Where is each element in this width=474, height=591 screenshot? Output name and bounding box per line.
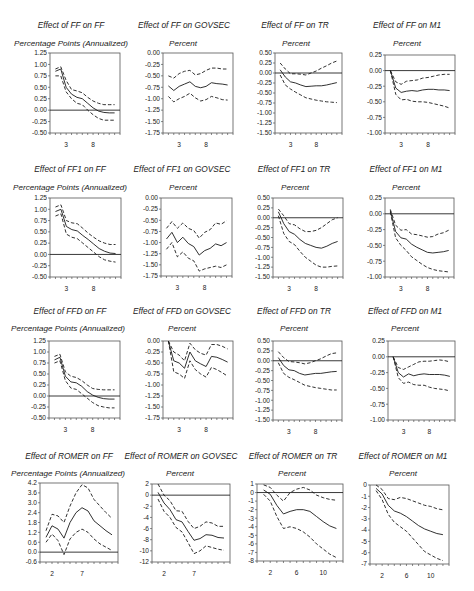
y-tick-label: -1.25 bbox=[145, 106, 160, 113]
x-tick-label: 3 bbox=[402, 428, 406, 435]
y-tick-label: -0.50 bbox=[257, 89, 272, 96]
y-tick-label: -0.50 bbox=[255, 234, 270, 241]
estimate-line bbox=[54, 357, 114, 399]
estimate-line bbox=[46, 508, 112, 538]
y-tick-label: 3.0 bbox=[28, 499, 37, 506]
x-tick-label: 7 bbox=[80, 570, 84, 577]
x-tick-label: 8 bbox=[314, 428, 318, 435]
plot-area: 4.23.63.02.41.81.20.60.0-0.627 bbox=[0, 445, 125, 591]
x-tick-label: 2 bbox=[162, 570, 166, 577]
y-tick-label: -5 bbox=[361, 538, 367, 545]
y-tick-label: -0.25 bbox=[32, 118, 47, 125]
y-tick-label: -4 bbox=[361, 526, 367, 533]
y-tick-label: -1.50 bbox=[255, 416, 270, 423]
y-tick-label: 0.75 bbox=[33, 359, 46, 366]
y-tick-label: -1.50 bbox=[257, 129, 272, 136]
x-tick-label: 8 bbox=[314, 285, 318, 292]
x-tick-label: 3 bbox=[399, 141, 403, 148]
y-tick-label: -0.50 bbox=[367, 98, 382, 105]
y-tick-label: 0.6 bbox=[28, 539, 37, 546]
y-tick-label: 1.25 bbox=[33, 337, 46, 344]
y-tick-label: -5 bbox=[248, 532, 254, 539]
y-tick-label: 1.00 bbox=[34, 61, 47, 68]
y-tick-label: -1.25 bbox=[255, 263, 270, 270]
y-tick-label: 0 bbox=[250, 489, 254, 496]
y-tick-label: -1.25 bbox=[257, 119, 272, 126]
confidence-band-lower-line bbox=[278, 216, 337, 267]
estimate-line bbox=[55, 69, 114, 113]
plot-area: 0.250.00-0.25-0.50-0.75-1.0038 bbox=[350, 158, 474, 298]
y-tick-label: 0.00 bbox=[257, 214, 270, 221]
y-tick-label: -0.50 bbox=[32, 129, 47, 136]
confidence-band-lower-line bbox=[54, 361, 114, 408]
y-tick-label: -7 bbox=[248, 549, 254, 556]
y-tick-label: -7 bbox=[361, 560, 367, 567]
confidence-band-upper-line bbox=[376, 485, 443, 510]
chart-romer-on-m1: Effect of ROMER on M1 Percent 0-1-2-3-4-… bbox=[350, 445, 474, 591]
chart-ff-on-m1: Effect of FF on M1 Percent 0.250.00-0.25… bbox=[350, 15, 474, 155]
y-tick-label: 0.50 bbox=[34, 228, 47, 235]
plot-frame bbox=[152, 484, 230, 562]
x-tick-label: 8 bbox=[204, 141, 208, 148]
y-tick-label: 0.00 bbox=[257, 357, 270, 364]
x-tick-label: 6 bbox=[405, 572, 409, 579]
y-tick-label: -0.75 bbox=[367, 114, 382, 121]
y-tick-label: 0.00 bbox=[259, 69, 272, 76]
confidence-band-upper-line bbox=[390, 71, 449, 85]
y-tick-label: 0.00 bbox=[33, 392, 46, 399]
plot-area: 20-2-4-6-8-10-1227 bbox=[125, 445, 237, 591]
x-tick-label: 6 bbox=[295, 569, 299, 576]
x-tick-label: 10 bbox=[427, 572, 435, 579]
chart-ff1-on-govsec: Effect of FF1 on GOVSEC Percent 0.00-0.2… bbox=[125, 158, 237, 298]
plot-area: 0.500.250.00-0.25-0.50-0.75-1.00-1.25-1.… bbox=[237, 15, 350, 155]
y-tick-label: 0 bbox=[363, 481, 367, 488]
plot-frame bbox=[257, 484, 343, 561]
y-tick-label: -0.50 bbox=[143, 217, 158, 224]
y-tick-label: 0.50 bbox=[257, 194, 270, 201]
y-tick-label: -8 bbox=[143, 536, 149, 543]
y-tick-label: -2 bbox=[361, 504, 367, 511]
y-tick-label: 2 bbox=[145, 480, 149, 487]
estimate-line bbox=[390, 211, 448, 253]
x-tick-label: 8 bbox=[92, 285, 96, 292]
y-tick-label: 0.25 bbox=[259, 59, 272, 66]
confidence-band-lower-line bbox=[280, 75, 337, 103]
y-tick-label: 0.00 bbox=[34, 106, 47, 113]
confidence-band-lower-line bbox=[264, 494, 337, 557]
y-tick-label: -0.25 bbox=[255, 224, 270, 231]
y-tick-label: -1.00 bbox=[367, 129, 382, 136]
y-tick-label: 0.00 bbox=[369, 210, 382, 217]
plot-area: 0-1-2-3-4-5-6-72610 bbox=[350, 445, 474, 591]
y-tick-label: -0.75 bbox=[145, 84, 160, 91]
chart-ff1-on-ff: Effect of FF1 on FF Percentage Points (A… bbox=[0, 158, 125, 298]
y-tick-label: -1.25 bbox=[255, 406, 270, 413]
estimate-line bbox=[168, 82, 227, 91]
chart-romer-on-ff: Effect of ROMER on FF Percentage Points … bbox=[0, 445, 125, 591]
y-tick-label: 0.25 bbox=[369, 194, 382, 201]
y-tick-label: 0.25 bbox=[257, 204, 270, 211]
y-tick-label: -0.75 bbox=[367, 258, 382, 265]
y-tick-label: -0.75 bbox=[143, 228, 158, 235]
x-tick-label: 8 bbox=[426, 285, 430, 292]
y-tick-label: 0.50 bbox=[259, 49, 272, 56]
y-tick-label: 0.25 bbox=[257, 347, 270, 354]
y-tick-label: 1.25 bbox=[34, 49, 47, 56]
x-tick-label: 8 bbox=[314, 141, 318, 148]
y-tick-label: -0.50 bbox=[31, 414, 46, 421]
y-tick-label: -1 bbox=[248, 497, 254, 504]
y-tick-label: -0.75 bbox=[255, 244, 270, 251]
plot-frame bbox=[40, 483, 118, 562]
y-tick-label: -4 bbox=[143, 514, 149, 521]
confidence-band-lower-line bbox=[168, 93, 227, 102]
plot-frame bbox=[370, 485, 449, 564]
plot-frame bbox=[49, 341, 120, 418]
plot-frame bbox=[161, 198, 232, 276]
y-tick-label: -0.50 bbox=[145, 72, 160, 79]
y-tick-label: -3 bbox=[248, 515, 254, 522]
y-tick-label: 0.50 bbox=[34, 84, 47, 91]
y-tick-label: 0.00 bbox=[147, 337, 160, 344]
y-tick-label: 0.75 bbox=[34, 72, 47, 79]
y-tick-label: 0.00 bbox=[34, 251, 47, 258]
y-tick-label: -1.25 bbox=[143, 250, 158, 257]
x-tick-label: 8 bbox=[91, 426, 95, 433]
